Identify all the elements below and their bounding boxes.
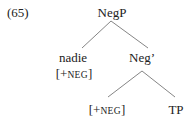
feature-close: ] xyxy=(88,66,92,81)
node-head-feature: [+neg] xyxy=(89,103,125,118)
feature-neg: neg xyxy=(67,70,87,80)
node-negbar: Neg’ xyxy=(129,51,155,64)
branch-negp-bar xyxy=(111,21,148,48)
feature-close: ] xyxy=(121,102,125,117)
branch-bar-head xyxy=(108,71,142,97)
feature-neg: neg xyxy=(100,106,120,116)
branch-negp-spec xyxy=(82,21,111,48)
feature-open: [+ xyxy=(89,102,101,117)
node-tp: TP xyxy=(168,103,183,116)
node-spec-nadie: nadie xyxy=(59,51,87,64)
feature-open: [+ xyxy=(56,66,68,81)
node-spec-feature: [+neg] xyxy=(56,67,92,82)
branch-bar-comp xyxy=(142,71,175,97)
